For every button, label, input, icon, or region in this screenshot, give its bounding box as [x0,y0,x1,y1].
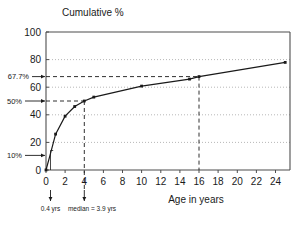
x-tick-label-24: 24 [270,176,282,187]
x-tick-label-22: 22 [251,176,263,187]
label-677-percent: 67.7% [8,72,30,81]
x-tick-label-20: 20 [232,176,244,187]
y-tick-label-40: 40 [30,109,42,120]
label-median-years: median = 3.9 yrs [68,205,117,213]
x-tick-label-10: 10 [136,176,148,187]
data-point-0 [45,169,48,172]
data-point-8 [198,75,201,78]
data-point-1 [54,133,57,136]
x-tick-label-2: 2 [62,176,68,187]
y-tick-label-80: 80 [30,54,42,65]
chart-title: Cumulative % [62,7,124,18]
x-tick-label-16: 16 [193,176,205,187]
x-tick-label-14: 14 [174,176,186,187]
label-50-percent: 50% [7,97,22,106]
x-tick-label-0: 0 [43,176,49,187]
data-point-7 [188,78,191,81]
chart-svg: Cumulative % 0 20 4 [0,0,302,225]
x-tick-label-18: 18 [213,176,225,187]
chart-background [0,0,302,225]
y-tick-label-20: 20 [30,137,42,148]
y-tick-label-60: 60 [30,82,42,93]
data-point-4 [83,100,86,103]
data-point-2 [64,115,67,118]
y-tick-label-100: 100 [24,27,41,38]
x-tick-label-12: 12 [155,176,167,187]
x-tick-label-6: 6 [101,176,107,187]
label-10-percent: 10% [7,151,22,160]
data-point-3 [73,105,76,108]
label-point-four-years: 0.4 yrs [41,205,61,213]
cumulative-percent-chart: Cumulative % 0 20 4 [0,0,302,225]
x-axis-title: Age in years [168,194,224,205]
data-point-9 [284,61,287,64]
data-point-5 [92,96,95,99]
data-point-6 [140,85,143,88]
x-tick-label-8: 8 [120,176,126,187]
y-tick-label-0: 0 [35,165,41,176]
